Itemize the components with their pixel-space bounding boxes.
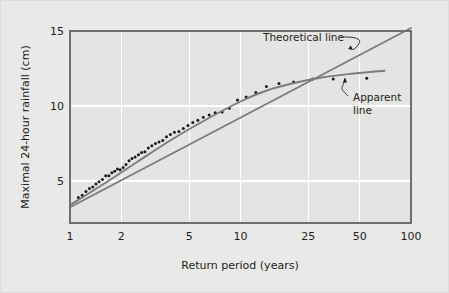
data-point: [119, 168, 122, 171]
data-point: [140, 151, 143, 154]
data-point: [196, 119, 199, 122]
figure-container: 125102550100 51015 Return period (years)…: [0, 0, 449, 293]
data-point: [277, 82, 280, 85]
data-point: [365, 77, 368, 80]
y-tick-label: 10: [50, 100, 64, 113]
data-point: [265, 85, 268, 88]
data-point: [84, 190, 87, 193]
x-tick-label: 50: [353, 230, 367, 243]
data-point: [236, 99, 239, 102]
y-tick-label: 15: [50, 25, 64, 38]
data-point: [110, 171, 113, 174]
annotation-text: Apparent: [353, 91, 401, 103]
data-point: [182, 127, 185, 130]
data-point: [94, 183, 97, 186]
x-tick-label: 100: [401, 230, 422, 243]
data-point: [177, 130, 180, 133]
x-axis-tick-labels: 125102550100: [67, 230, 422, 243]
data-point: [104, 174, 107, 177]
data-point: [113, 170, 116, 173]
data-point: [332, 78, 335, 81]
x-tick-label: 10: [234, 230, 248, 243]
annotation-text: Theoretical line: [262, 31, 344, 43]
data-point: [130, 157, 133, 160]
x-tick-label: 5: [186, 230, 193, 243]
data-point: [122, 166, 125, 169]
x-tick-label: 1: [67, 230, 74, 243]
gridlines-group: [70, 31, 411, 223]
data-point: [154, 142, 157, 145]
data-point: [88, 187, 91, 190]
y-tick-label: 5: [57, 175, 64, 188]
data-point: [101, 178, 104, 181]
x-axis-title: Return period (years): [181, 259, 298, 272]
data-point: [150, 144, 153, 147]
data-point: [169, 133, 172, 136]
data-point: [137, 153, 140, 156]
data-point: [116, 168, 119, 171]
data-point: [165, 135, 168, 138]
x-tick-label: 2: [118, 230, 125, 243]
data-point: [128, 159, 131, 162]
data-point: [208, 114, 211, 117]
data-point: [107, 174, 110, 177]
annotation-text: line: [353, 104, 372, 116]
data-point: [173, 131, 176, 134]
x-tick-label: 25: [301, 230, 315, 243]
rainfall-return-period-chart: 125102550100 51015 Return period (years)…: [1, 1, 449, 293]
y-axis-title: Maximal 24-hour rainfall (cm): [19, 45, 32, 208]
data-point: [124, 163, 127, 166]
data-point: [98, 180, 101, 183]
data-point: [202, 116, 205, 119]
data-point: [158, 141, 161, 144]
data-point: [191, 121, 194, 124]
y-axis-tick-labels: 51015: [50, 25, 64, 188]
data-point: [91, 186, 94, 189]
data-point: [186, 124, 189, 127]
data-point: [161, 139, 164, 142]
data-point: [147, 147, 150, 150]
data-point: [143, 150, 146, 153]
data-point: [134, 156, 137, 159]
